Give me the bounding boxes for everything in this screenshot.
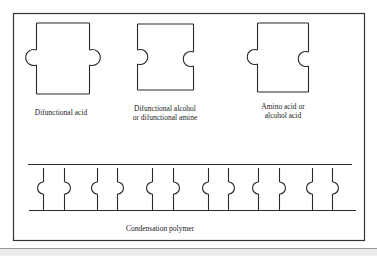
polymer-chain (28, 165, 356, 211)
bottom-strip (0, 248, 377, 256)
label-line: Condensation polymer (126, 224, 194, 233)
label-line: Difunctional acid (35, 108, 87, 117)
monomer-amino-acid (247, 23, 308, 92)
label-line: or difunctional amine (119, 114, 211, 123)
label-difunctional-alcohol: Difunctional alcohol or difunctional ami… (119, 105, 211, 122)
label-condensation-polymer: Condensation polymer (105, 225, 215, 234)
label-amino-acid: Amino acid or alcohol acid (243, 103, 323, 120)
monomer-difunctional-acid (26, 23, 101, 94)
label-difunctional-acid: Difunctional acid (20, 109, 102, 118)
monomer-difunctional-alcohol (138, 24, 194, 90)
figure-frame (14, 14, 365, 241)
label-line: alcohol acid (243, 112, 323, 121)
